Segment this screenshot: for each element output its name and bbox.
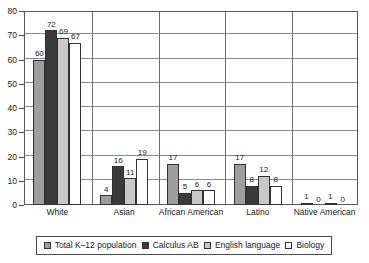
bar-value-label: 16 [108, 157, 128, 165]
bars-layer: 607269674161119175661781281010 [24, 11, 358, 205]
bar [234, 164, 246, 205]
bar-value-label: 67 [65, 33, 85, 41]
bar-group: 1010 [291, 11, 358, 205]
y-axis-tick-label: 60 [8, 56, 17, 65]
bar-value-label: 6 [199, 181, 219, 189]
legend-item: Biology [285, 241, 324, 250]
legend-label: Calculus AB [153, 241, 199, 250]
bar-value-label: 17 [230, 154, 250, 162]
y-axis-tick-label: 10 [8, 177, 17, 186]
legend-item: English language [204, 241, 280, 250]
bar [124, 178, 136, 205]
y-axis-tick-label: 70 [8, 31, 17, 40]
x-axis-tick-label: Asian [91, 208, 158, 217]
y-axis-tick-label: 20 [8, 153, 17, 162]
legend-swatch-icon [204, 242, 211, 249]
bar [33, 60, 45, 206]
y-axis: 01020304050607080 [0, 0, 24, 206]
x-axis: WhiteAsianAfrican AmericanLatinoNative A… [24, 208, 358, 222]
bar [57, 38, 69, 205]
bar [136, 159, 148, 205]
bar-value-label: 12 [254, 166, 274, 174]
bar-group: 60726967 [24, 11, 91, 205]
legend: Total K–12 populationCalculus ABEnglish … [36, 236, 332, 255]
bar [191, 190, 203, 205]
y-axis-tick-mark [19, 205, 24, 206]
x-axis-tick-label: Latino [224, 208, 291, 217]
legend-item: Calculus AB [142, 241, 199, 250]
bar [203, 190, 215, 205]
bar [69, 43, 81, 205]
x-axis-tick-label: African American [158, 208, 225, 217]
bar-value-label: 8 [266, 176, 286, 184]
legend-label: Total K–12 population [55, 241, 137, 250]
legend-swatch-icon [285, 242, 292, 249]
legend-swatch-icon [44, 242, 51, 249]
legend-label: Biology [296, 241, 324, 250]
bar-group: 4161119 [91, 11, 158, 205]
y-axis-tick-label: 80 [8, 7, 17, 16]
bar [179, 193, 191, 205]
y-axis-tick-label: 0 [12, 201, 17, 210]
bar [100, 195, 112, 205]
x-axis-tick-label: White [24, 208, 91, 217]
bar-group: 178128 [224, 11, 291, 205]
bar [45, 30, 57, 205]
x-axis-tick-label: Native American [291, 208, 358, 217]
y-axis-tick-label: 50 [8, 80, 17, 89]
bar-value-label: 0 [332, 196, 352, 204]
bar-value-label: 17 [163, 154, 183, 162]
y-axis-tick-label: 30 [8, 128, 17, 137]
bar-chart: 01020304050607080 6072696741611191756617… [0, 0, 369, 263]
legend-swatch-icon [142, 242, 149, 249]
bar [270, 186, 282, 205]
bar [246, 186, 258, 205]
legend-item: Total K–12 population [44, 241, 137, 250]
bar-value-label: 19 [132, 149, 152, 157]
y-axis-tick-label: 40 [8, 104, 17, 113]
legend-label: English language [215, 241, 280, 250]
bar-group: 17566 [158, 11, 225, 205]
